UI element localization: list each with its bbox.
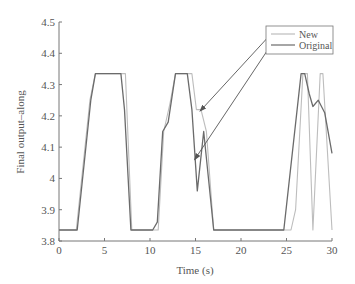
series-new-line xyxy=(59,74,332,230)
y-tick-label: 4.2 xyxy=(41,110,55,122)
annotation-arrow-original xyxy=(195,45,271,160)
y-tick-label: 4.5 xyxy=(41,16,55,28)
legend-label-original: Original xyxy=(299,40,333,51)
x-tick-label: 15 xyxy=(190,244,202,256)
x-axis-title: Time (s) xyxy=(176,264,214,277)
x-tick-label: 30 xyxy=(327,244,339,256)
annotation-arrow-new xyxy=(200,34,271,111)
x-tick-label: 25 xyxy=(281,244,293,256)
x-tick-label: 0 xyxy=(56,244,62,256)
series-original-line xyxy=(59,74,332,230)
y-tick-label: 3.8 xyxy=(41,235,55,247)
y-tick-label: 3.9 xyxy=(41,204,55,216)
x-tick-label: 20 xyxy=(236,244,248,256)
x-tick-label: 10 xyxy=(145,244,157,256)
plot-area xyxy=(59,74,332,230)
y-tick-label: 4.3 xyxy=(41,79,55,91)
y-tick-label: 4 xyxy=(50,172,56,184)
legend-label-new: New xyxy=(299,29,319,40)
annotations xyxy=(195,34,271,160)
y-tick-label: 4.4 xyxy=(41,47,55,59)
x-tick-label: 5 xyxy=(102,244,108,256)
legend: NewOriginal xyxy=(266,26,333,54)
line-chart: 0510152025303.83.944.14.24.34.44.5 NewOr… xyxy=(0,0,355,284)
y-tick-label: 4.1 xyxy=(41,141,55,153)
y-axis-title: Final output–along xyxy=(14,90,26,174)
